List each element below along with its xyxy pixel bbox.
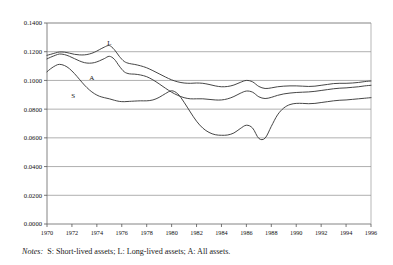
y-tick-labels: 0.14000.12000.10000.08000.06000.04000.02… bbox=[24, 19, 43, 227]
x-tick-label: 1972 bbox=[66, 229, 78, 236]
y-tick-label: 0.0600 bbox=[24, 134, 43, 141]
x-tick-label: 1986 bbox=[240, 229, 252, 236]
notes-text: S: Short-lived assets; L: Long-lived ass… bbox=[47, 247, 230, 256]
x-tick-label: 1996 bbox=[365, 229, 377, 236]
series-label-A: A bbox=[89, 74, 94, 82]
x-tick-label: 1992 bbox=[315, 229, 327, 236]
figure-container: 0.14000.12000.10000.08000.06000.04000.02… bbox=[0, 0, 393, 265]
x-tick-label: 1984 bbox=[215, 229, 227, 236]
notes-label: Notes: bbox=[22, 247, 43, 256]
x-tick-label: 1974 bbox=[91, 229, 103, 236]
series-label-S: S bbox=[71, 92, 75, 100]
plot-area bbox=[47, 23, 371, 224]
y-tick-label: 0.1400 bbox=[24, 19, 43, 26]
y-tick-label: 0.0200 bbox=[24, 192, 43, 199]
y-tick-label: 0.1200 bbox=[24, 48, 43, 55]
x-tick-label: 1980 bbox=[165, 229, 177, 236]
y-tick-label: 0.0800 bbox=[24, 106, 43, 113]
y-tick-label: 0.0400 bbox=[24, 163, 43, 170]
x-tick-label: 1976 bbox=[116, 229, 128, 236]
plot-background bbox=[47, 23, 371, 224]
x-tick-label: 1988 bbox=[265, 229, 277, 236]
x-tick-label: 1982 bbox=[190, 229, 202, 236]
x-tick-marks bbox=[47, 224, 371, 227]
x-tick-label: 1990 bbox=[290, 229, 302, 236]
x-tick-labels: 1970197219741976197819801982198419861988… bbox=[41, 229, 377, 236]
y-tick-label: 0.1000 bbox=[24, 77, 43, 84]
y-tick-label: 0.0000 bbox=[24, 220, 43, 227]
line-chart: 0.14000.12000.10000.08000.06000.04000.02… bbox=[0, 0, 393, 240]
series-label-L: L bbox=[107, 39, 111, 47]
x-tick-label: 1970 bbox=[41, 229, 53, 236]
x-tick-label: 1978 bbox=[141, 229, 153, 236]
y-tick-marks bbox=[44, 23, 47, 224]
notes-caption: Notes:S: Short-lived assets; L: Long-liv… bbox=[22, 246, 382, 257]
x-tick-label: 1994 bbox=[340, 229, 352, 236]
